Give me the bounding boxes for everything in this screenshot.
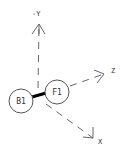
x-axis-label: X	[98, 138, 103, 146]
z-axis: Z	[70, 67, 115, 86]
y-axis-line	[38, 25, 39, 88]
z-axis-label: Z	[111, 67, 115, 75]
y-axis: -Y	[32, 10, 45, 88]
coordinate-frame-diagram: -Y Z X B1 F1	[0, 0, 127, 155]
node-b1: B1	[9, 89, 33, 113]
y-axis-label: -Y	[32, 10, 41, 18]
node-f1: F1	[45, 80, 69, 104]
x-axis: X	[46, 104, 103, 146]
x-axis-line	[46, 104, 93, 138]
b1-f1-link	[32, 93, 46, 97]
node-b1-label: B1	[16, 97, 26, 106]
node-f1-label: F1	[52, 88, 62, 97]
